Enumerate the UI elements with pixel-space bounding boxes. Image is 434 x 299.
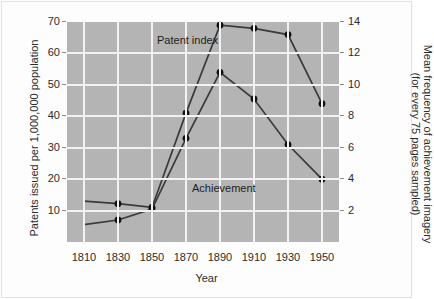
series-annotation-patent-index: Patent index (157, 34, 218, 46)
tick-mark (340, 21, 344, 22)
y-axis-tick-left: 50 (20, 79, 60, 90)
plot-area (67, 22, 339, 242)
tick-mark (340, 178, 344, 179)
tick-mark (62, 115, 66, 116)
y-axis-label-right-line1: Mean frequency of achievement imagery (422, 45, 434, 244)
tick-mark (340, 115, 344, 116)
tick-mark (340, 84, 344, 85)
gridline-horizontal (67, 84, 339, 86)
y-axis-tick-right: 4 (348, 173, 388, 184)
tick-mark (62, 52, 66, 53)
tick-mark (62, 21, 66, 22)
tick-mark (340, 147, 344, 148)
y-axis-tick-left: 40 (20, 110, 60, 121)
tick-mark (62, 178, 66, 179)
y-axis-label-right: Mean frequency of achievement imagery (f… (410, 44, 434, 244)
y-axis-tick-left: 70 (20, 16, 60, 27)
gridline-horizontal (67, 178, 339, 180)
tick-mark (62, 210, 66, 211)
y-axis-tick-right: 10 (348, 79, 388, 90)
x-axis-tick: 1950 (299, 251, 345, 263)
y-axis-tick-right: 12 (348, 47, 388, 58)
y-axis-tick-left: 30 (20, 142, 60, 153)
y-axis-tick-left: 20 (20, 173, 60, 184)
gridline-horizontal (67, 115, 339, 117)
gridline-horizontal (67, 210, 339, 212)
tick-mark (62, 147, 66, 148)
series-annotation-achievement: Achievement (192, 182, 256, 194)
y-axis-label-right-line2: (for every 75 pages sampled) (410, 44, 422, 244)
tick-mark (62, 84, 66, 85)
x-axis-label: Year (0, 272, 413, 284)
y-axis-tick-right: 8 (348, 110, 388, 121)
gridline-horizontal (67, 147, 339, 149)
tick-mark (340, 210, 344, 211)
gridline-horizontal (67, 52, 339, 54)
tick-mark (340, 52, 344, 53)
y-axis-tick-left: 10 (20, 205, 60, 216)
y-axis-tick-right: 14 (348, 16, 388, 27)
y-axis-tick-left: 60 (20, 47, 60, 58)
y-axis-tick-right: 2 (348, 205, 388, 216)
y-axis-tick-right: 6 (348, 142, 388, 153)
